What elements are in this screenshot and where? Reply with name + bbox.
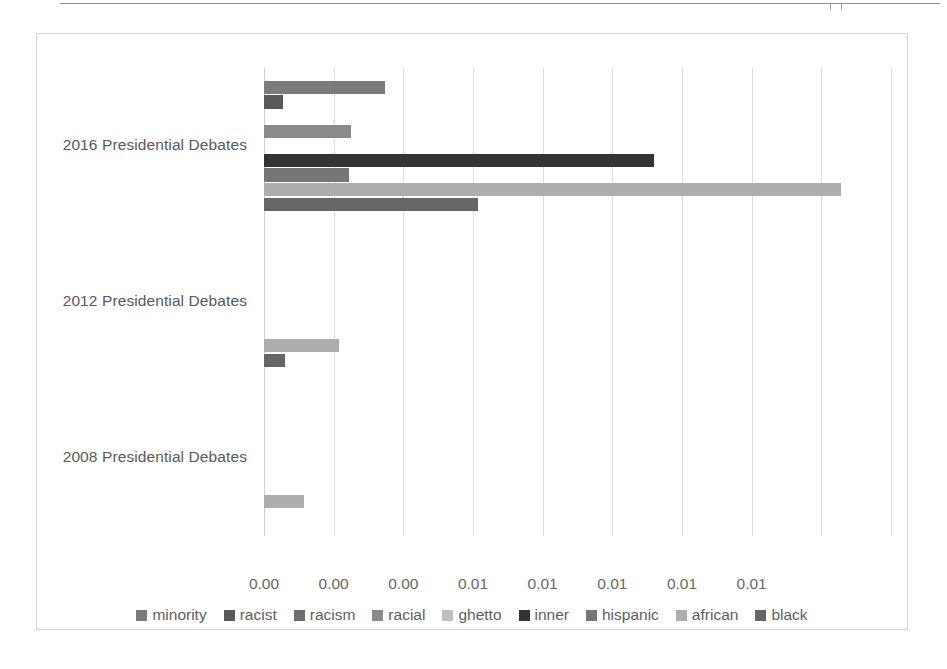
- x-tick-label-1: 0.00: [319, 575, 349, 593]
- bar-african-1[interactable]: [264, 339, 339, 352]
- x-tick-label-4: 0.01: [528, 575, 558, 593]
- bar-racist-0[interactable]: [264, 95, 283, 108]
- legend-label-inner: inner: [535, 606, 569, 624]
- bar-row: [264, 480, 891, 495]
- legend-swatch-african: [676, 610, 687, 621]
- category-label-1: 2012 Presidential Debates: [37, 292, 247, 310]
- bar-group-0: [264, 80, 891, 211]
- legend-label-racism: racism: [310, 606, 356, 624]
- bar-row: [264, 124, 891, 139]
- bar-hispanic-0[interactable]: [264, 168, 349, 181]
- bar-row: [264, 251, 891, 266]
- x-tick-label-6: 0.01: [667, 575, 697, 593]
- bar-african-2[interactable]: [264, 495, 304, 508]
- bar-row: [264, 353, 891, 368]
- category-label-0: 2016 Presidential Debates: [37, 136, 247, 154]
- legend-swatch-ghetto: [442, 610, 453, 621]
- legend-label-racist: racist: [240, 606, 277, 624]
- bar-row: [264, 265, 891, 280]
- legend-item-hispanic[interactable]: hispanic: [586, 606, 659, 624]
- bar-black-1[interactable]: [264, 354, 285, 367]
- bar-inner-0[interactable]: [264, 154, 654, 167]
- legend-swatch-hispanic: [586, 610, 597, 621]
- bar-african-0[interactable]: [264, 183, 841, 196]
- x-axis-tick-labels: 0.000.000.000.010.010.010.010.01: [264, 575, 891, 597]
- bar-row: [264, 236, 891, 251]
- legend-label-hispanic: hispanic: [602, 606, 659, 624]
- legend-swatch-black: [755, 610, 766, 621]
- chart-legend: minorityracistracismracialghettoinnerhis…: [37, 606, 907, 624]
- legend-item-racist[interactable]: racist: [224, 606, 277, 624]
- legend-swatch-racist: [224, 610, 235, 621]
- legend-label-racial: racial: [388, 606, 425, 624]
- legend-item-inner[interactable]: inner: [519, 606, 569, 624]
- bar-row: [264, 182, 891, 197]
- bar-row: [264, 324, 891, 339]
- bar-row: [264, 153, 891, 168]
- x-tick-label-7: 0.01: [737, 575, 767, 593]
- bar-row: [264, 109, 891, 124]
- bar-row: [264, 139, 891, 154]
- x-tick-label-0: 0.00: [249, 575, 279, 593]
- bar-row: [264, 436, 891, 451]
- legend-label-african: african: [692, 606, 739, 624]
- bar-row: [264, 494, 891, 509]
- bar-row: [264, 451, 891, 466]
- legend-item-minority[interactable]: minority: [136, 606, 206, 624]
- legend-item-racism[interactable]: racism: [294, 606, 356, 624]
- legend-swatch-racism: [294, 610, 305, 621]
- bar-row: [264, 338, 891, 353]
- bar-group-2: [264, 392, 891, 523]
- plot-area: [264, 68, 891, 536]
- bar-row: [264, 168, 891, 183]
- bar-row: [264, 309, 891, 324]
- bar-row: [264, 295, 891, 310]
- bar-minority-0[interactable]: [264, 81, 385, 94]
- legend-swatch-inner: [519, 610, 530, 621]
- x-tick-label-5: 0.01: [597, 575, 627, 593]
- bar-row: [264, 509, 891, 524]
- bar-row: [264, 197, 891, 212]
- bar-row: [264, 95, 891, 110]
- legend-item-black[interactable]: black: [755, 606, 807, 624]
- legend-item-racial[interactable]: racial: [372, 606, 425, 624]
- bar-row: [264, 465, 891, 480]
- x-tick-label-2: 0.00: [388, 575, 418, 593]
- legend-item-ghetto[interactable]: ghetto: [442, 606, 501, 624]
- bar-racial-0[interactable]: [264, 125, 351, 138]
- page-horizontal-rule: [60, 3, 940, 4]
- legend-label-minority: minority: [152, 606, 206, 624]
- gridline-9: [891, 68, 892, 536]
- x-tick-label-3: 0.01: [458, 575, 488, 593]
- category-label-2: 2008 Presidential Debates: [37, 448, 247, 466]
- bar-row: [264, 421, 891, 436]
- bar-row: [264, 392, 891, 407]
- legend-item-african[interactable]: african: [676, 606, 739, 624]
- legend-label-ghetto: ghetto: [458, 606, 501, 624]
- bar-row: [264, 80, 891, 95]
- legend-label-black: black: [771, 606, 807, 624]
- chart-frame: 2016 Presidential Debates2012 Presidenti…: [36, 33, 908, 630]
- legend-swatch-minority: [136, 610, 147, 621]
- bar-row: [264, 280, 891, 295]
- page-rule-tick-mark: [830, 3, 842, 10]
- bar-black-0[interactable]: [264, 198, 478, 211]
- legend-swatch-racial: [372, 610, 383, 621]
- bar-group-1: [264, 236, 891, 367]
- bar-row: [264, 407, 891, 422]
